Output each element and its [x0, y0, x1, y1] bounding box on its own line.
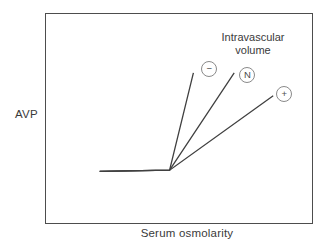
marker-decreased-volume: −: [201, 61, 217, 77]
marker-increased-volume: +: [276, 86, 292, 102]
x-axis-label: Serum osmolarity: [45, 227, 313, 239]
y-axis-label: AVP: [15, 108, 38, 120]
plot-area: Intravascular volume − N +: [45, 13, 313, 224]
legend-title-line2: volume: [205, 44, 301, 57]
marker-n-symbol: N: [244, 70, 251, 80]
series-line-normal: [100, 73, 235, 172]
marker-normal-volume: N: [239, 67, 255, 83]
avp-osmolarity-figure: AVP Intravascular volume − N + Serum osm…: [0, 0, 329, 245]
marker-plus-symbol: +: [281, 89, 287, 99]
series-line-plus: [100, 96, 274, 172]
marker-minus-symbol: −: [207, 64, 213, 74]
legend-title-line1: Intravascular: [205, 31, 301, 44]
legend-title: Intravascular volume: [205, 31, 301, 57]
